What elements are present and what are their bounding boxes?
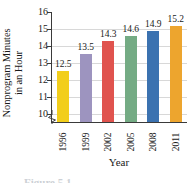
x-tick-label: 1999 xyxy=(81,125,91,159)
y-tick-mark xyxy=(47,46,51,47)
x-axis-title: Year xyxy=(51,156,187,168)
bar xyxy=(170,26,182,122)
bar-chart-figure: Nonprogram Minutes in an Hour 1011121314… xyxy=(0,0,191,183)
y-tick-label: 11 xyxy=(28,92,48,102)
x-tick-label: 2011 xyxy=(171,125,181,159)
x-axis-line xyxy=(51,122,187,123)
bar-value-label: 13.5 xyxy=(69,43,103,53)
bar-series: 12.513.514.314.614.915.2 xyxy=(52,12,187,122)
y-tick-label: 15 xyxy=(28,24,48,34)
bar xyxy=(57,71,69,122)
plot-area: 12.513.514.314.614.915.2 xyxy=(51,12,187,122)
bar-value-label: 15.2 xyxy=(159,15,191,25)
y-axis-title-line-2: in an Hour xyxy=(13,12,25,134)
y-tick-mark xyxy=(47,80,51,81)
x-tick-label: 2008 xyxy=(148,125,158,159)
bar xyxy=(147,31,159,122)
y-axis-title-line-1: Nonprogram Minutes xyxy=(1,12,13,134)
figure-caption: Figure 5.1 xyxy=(24,176,164,183)
x-axis-tick-labels: 199619992002200520082011 xyxy=(51,124,187,156)
y-tick-label: 14 xyxy=(28,41,48,51)
y-tick-mark xyxy=(47,12,51,13)
bar xyxy=(80,54,92,122)
bar-value-label: 12.5 xyxy=(46,60,80,70)
y-tick-label: 16 xyxy=(28,7,48,17)
y-tick-label: 12 xyxy=(28,75,48,85)
x-tick-label: 2002 xyxy=(103,125,113,159)
x-tick-label: 1996 xyxy=(58,125,68,159)
y-axis-title: Nonprogram Minutes in an Hour xyxy=(1,12,27,134)
y-tick-mark xyxy=(47,29,51,30)
bar xyxy=(102,41,114,122)
x-tick-label: 2005 xyxy=(126,125,136,159)
y-axis-tick-labels: 10111213141516 xyxy=(28,0,48,183)
y-tick-label: 13 xyxy=(28,58,48,68)
bar xyxy=(125,36,137,122)
y-tick-mark xyxy=(47,97,51,98)
y-tick-label: 10 xyxy=(28,109,48,119)
